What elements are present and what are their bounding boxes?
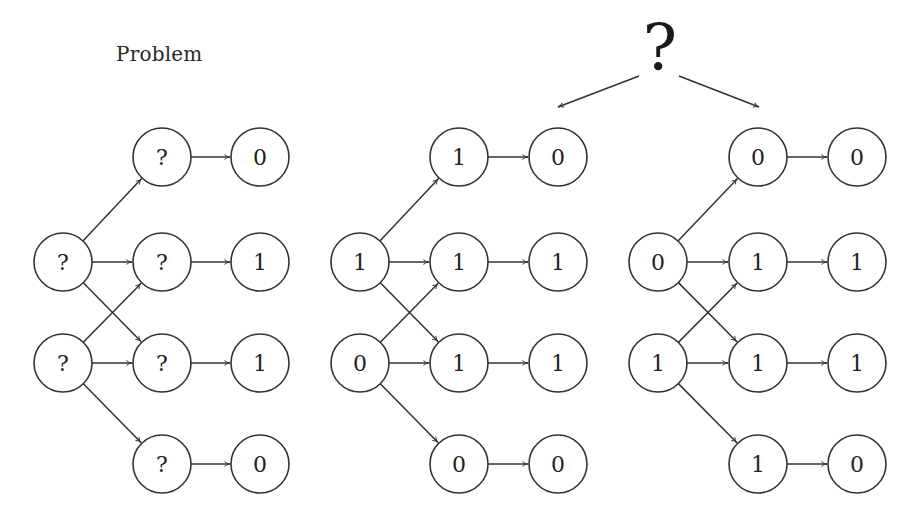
node-label: 0: [452, 452, 466, 477]
edge-input-to-hidden: [83, 384, 141, 443]
choice-arrows: [558, 76, 759, 107]
node-label: 0: [751, 145, 765, 170]
hidden-node: 1: [430, 334, 488, 392]
node-label: 0: [353, 351, 367, 376]
arrow-to-solution-b: [679, 76, 759, 107]
output-node: 0: [828, 435, 886, 493]
node-label: 1: [551, 351, 565, 376]
panels: ??????011010111001100101110110: [34, 128, 886, 493]
input-node: ?: [34, 233, 92, 291]
node-label: 1: [452, 351, 466, 376]
node-label: 1: [253, 351, 267, 376]
hidden-node: 1: [729, 334, 787, 392]
edge-input-to-hidden: [83, 179, 142, 241]
output-node: 1: [529, 334, 587, 392]
node-label: 0: [551, 452, 565, 477]
node-label: ?: [57, 351, 69, 376]
node-label: 1: [551, 250, 565, 275]
edge-input-to-hidden: [678, 179, 737, 241]
node-label: 0: [850, 145, 864, 170]
diagram-canvas: Problem ? ??????011010111001100101110110: [0, 0, 917, 528]
output-node: 1: [231, 334, 289, 392]
node-label: 0: [850, 452, 864, 477]
hidden-node: ?: [133, 334, 191, 392]
input-node: 0: [331, 334, 389, 392]
node-label: ?: [156, 351, 168, 376]
input-node: 0: [629, 233, 687, 291]
hidden-node: 1: [729, 435, 787, 493]
node-label: 1: [253, 250, 267, 275]
node-label: 1: [353, 250, 367, 275]
input-node: 1: [331, 233, 389, 291]
circuit-graphs: ??????011010111001100101110110: [0, 0, 917, 528]
node-label: 1: [850, 250, 864, 275]
edge-input-to-hidden: [380, 384, 438, 443]
node-label: 0: [253, 145, 267, 170]
output-node: 1: [231, 233, 289, 291]
hidden-node: 0: [430, 435, 488, 493]
node-label: ?: [156, 452, 168, 477]
output-node: 0: [529, 435, 587, 493]
hidden-node: ?: [133, 435, 191, 493]
hidden-node: 0: [729, 128, 787, 186]
node-label: 1: [751, 452, 765, 477]
hidden-node: ?: [133, 233, 191, 291]
input-node: ?: [34, 334, 92, 392]
node-label: ?: [156, 145, 168, 170]
node-label: 1: [452, 145, 466, 170]
output-node: 0: [231, 435, 289, 493]
node-label: ?: [57, 250, 69, 275]
arrow-to-solution-a: [558, 76, 639, 107]
output-node: 0: [529, 128, 587, 186]
hidden-node: 1: [430, 128, 488, 186]
node-label: 1: [751, 351, 765, 376]
panel-problem: ??????0110: [34, 128, 289, 493]
output-node: 1: [828, 334, 886, 392]
node-label: 0: [253, 452, 267, 477]
node-label: 1: [850, 351, 864, 376]
hidden-node: 1: [729, 233, 787, 291]
edge-input-to-hidden: [678, 384, 736, 443]
panel-solution-a: 1011100110: [331, 128, 587, 493]
panel-solution-b: 0101110110: [629, 128, 886, 493]
output-node: 1: [529, 233, 587, 291]
node-label: 0: [651, 250, 665, 275]
output-node: 0: [231, 128, 289, 186]
input-node: 1: [629, 334, 687, 392]
node-label: 1: [452, 250, 466, 275]
node-label: ?: [156, 250, 168, 275]
node-label: 1: [751, 250, 765, 275]
output-node: 1: [828, 233, 886, 291]
output-node: 0: [828, 128, 886, 186]
edge-input-to-hidden: [380, 179, 439, 241]
node-label: 0: [551, 145, 565, 170]
hidden-node: 1: [430, 233, 488, 291]
hidden-node: ?: [133, 128, 191, 186]
node-label: 1: [651, 351, 665, 376]
